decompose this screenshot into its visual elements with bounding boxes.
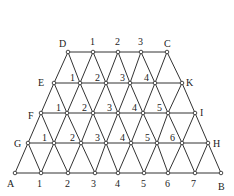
- node-label: 1: [56, 102, 61, 113]
- grid-node: [166, 111, 170, 115]
- grid-node: [13, 171, 17, 175]
- grid-node: [52, 81, 56, 85]
- node-label: A: [7, 178, 15, 189]
- grid-node: [155, 141, 159, 145]
- diagonal-edge: [41, 143, 54, 173]
- node-label: G: [14, 138, 21, 149]
- grid-node: [78, 81, 82, 85]
- node-label: F: [28, 110, 34, 121]
- diagonal-edge: [106, 143, 118, 173]
- grid-node: [116, 111, 120, 115]
- diagonal-edge: [130, 52, 141, 83]
- diagonal-edge: [93, 83, 106, 113]
- diagonal-edge: [157, 143, 168, 173]
- diagonal-edge: [80, 52, 93, 83]
- diagonal-edge: [81, 143, 95, 173]
- node-label: 7: [191, 178, 196, 189]
- node-label: 4: [115, 178, 120, 189]
- diagonal-edge: [195, 143, 208, 173]
- grid-node: [128, 81, 132, 85]
- node-label: 2: [115, 36, 120, 47]
- grid-node: [180, 81, 184, 85]
- node-label: 3: [138, 36, 143, 47]
- node-label: D: [59, 38, 66, 49]
- node-label: 2: [65, 178, 70, 189]
- diagonal-edge: [54, 52, 68, 83]
- grid-node: [91, 111, 95, 115]
- node-label: 3: [120, 72, 125, 83]
- grid-node: [141, 111, 145, 115]
- node-label: 6: [170, 132, 175, 143]
- diagonal-edge: [54, 113, 67, 143]
- diagonal-edge: [182, 113, 195, 143]
- node-label: 5: [141, 178, 146, 189]
- grid-node: [129, 141, 133, 145]
- node-label: 3: [107, 102, 112, 113]
- node-label: I: [200, 107, 203, 118]
- diagonal-edge: [68, 143, 81, 173]
- node-label: 3: [91, 178, 96, 189]
- grid-node: [65, 111, 69, 115]
- node-label: 3: [95, 132, 100, 143]
- diagonal-edge: [28, 143, 41, 173]
- grid-node: [166, 171, 170, 175]
- grid-node: [116, 50, 120, 54]
- grid-node: [39, 171, 43, 175]
- grid-node: [26, 141, 30, 145]
- node-label: 4: [132, 102, 137, 113]
- node-label: 4: [144, 72, 149, 83]
- node-label: 2: [82, 102, 87, 113]
- diagonal-edge: [168, 143, 182, 173]
- diagonal-edge: [81, 113, 93, 143]
- diagonal-edge: [118, 83, 130, 113]
- grid-node: [116, 171, 120, 175]
- triangular-grid-diagram: D123CE1234KF12345IG123456HA1234567B: [0, 0, 234, 196]
- node-label: 1: [37, 178, 42, 189]
- node-label: 1: [70, 72, 75, 83]
- grid-node: [165, 50, 169, 54]
- diagonal-edge: [131, 113, 143, 143]
- grid-node: [91, 50, 95, 54]
- diagonal-edge: [144, 143, 157, 173]
- grid-node: [219, 171, 223, 175]
- diagonal-edge: [106, 52, 118, 83]
- grid-node: [104, 81, 108, 85]
- diagonal-edge: [67, 83, 80, 113]
- grid-node: [142, 171, 146, 175]
- grid-node: [139, 50, 143, 54]
- node-label: 4: [120, 132, 125, 143]
- diagonal-edge: [168, 83, 182, 113]
- node-label: 5: [157, 102, 162, 113]
- grid-node: [153, 81, 157, 85]
- diagonal-edge: [54, 143, 68, 173]
- node-label: 6: [165, 178, 170, 189]
- grid-node: [180, 141, 184, 145]
- node-label: E: [38, 77, 44, 88]
- grid-node: [52, 141, 56, 145]
- grid-node: [193, 111, 197, 115]
- node-label: B: [218, 181, 225, 192]
- grid-node: [39, 111, 43, 115]
- grid-node: [66, 50, 70, 54]
- diagonal-edge: [143, 83, 155, 113]
- diagonal-edge: [95, 143, 106, 173]
- node-label: 2: [95, 72, 100, 83]
- grid-node: [206, 141, 210, 145]
- grid-node: [93, 171, 97, 175]
- diagonal-edge: [131, 143, 144, 173]
- grid-node: [193, 171, 197, 175]
- diagonal-edge: [157, 113, 168, 143]
- node-label: K: [186, 77, 194, 88]
- node-label: 1: [42, 132, 47, 143]
- diagonal-edge: [106, 113, 118, 143]
- node-label: 5: [145, 132, 150, 143]
- diagonal-edge: [155, 52, 167, 83]
- node-label: 1: [90, 36, 95, 47]
- grid-node: [66, 171, 70, 175]
- node-label: H: [213, 138, 220, 149]
- diagonal-edge: [167, 52, 182, 83]
- grid-node: [79, 141, 83, 145]
- diagonal-edge: [118, 143, 131, 173]
- grid-node: [104, 141, 108, 145]
- diagonal-edge: [182, 143, 195, 173]
